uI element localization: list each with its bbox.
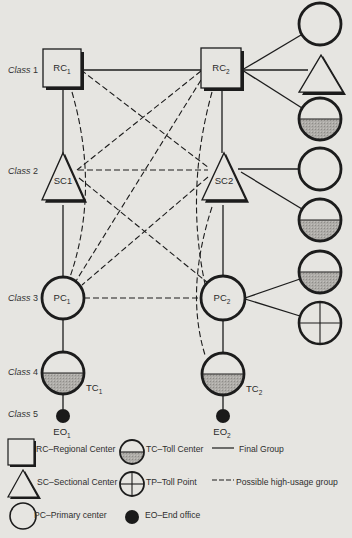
- node-r1: [299, 3, 341, 45]
- node-sc1: SC1: [42, 153, 87, 203]
- node-label-subscript: 2: [259, 389, 263, 396]
- legend-item-RC: RC–Regional Center: [8, 439, 115, 467]
- class-label-2: Class 2: [8, 166, 38, 176]
- class-number: 2: [33, 166, 38, 176]
- high-usage-link-rc2-sc1: [77, 71, 201, 170]
- filled-circle-icon: [125, 510, 139, 524]
- node-label-subscript: 1: [67, 68, 71, 75]
- node-r2: [299, 55, 346, 95]
- legend-item-TC: TC–Toll Center: [120, 440, 203, 464]
- circle-icon: [299, 148, 341, 190]
- legend-label: TP–Toll Point: [146, 477, 197, 487]
- high-usage-links: [70, 70, 212, 355]
- node-label-subscript: 2: [227, 432, 231, 439]
- node-r7: [299, 302, 341, 344]
- legend-label: RC–Regional Center: [36, 444, 115, 454]
- node-r3: [299, 98, 341, 140]
- node-pc2: PC2: [201, 276, 245, 320]
- node-label: SC1: [54, 175, 72, 186]
- toll-network-diagram: RC1RC2SC1SC2PC1PC2TC1TC2EO1EO2 Class 1Cl…: [0, 0, 352, 538]
- node-label-subscript: 1: [67, 298, 71, 305]
- node-label: EO2: [213, 426, 231, 439]
- node-rc1: RC1: [43, 49, 84, 90]
- node-label: SC2: [215, 175, 233, 186]
- node-eo1: EO1: [53, 409, 71, 439]
- node-tc2: TC2: [202, 353, 263, 396]
- class-number: 1: [33, 65, 38, 75]
- class-number: 3: [33, 293, 38, 303]
- legend-item-TP: TP–Toll Point: [120, 472, 197, 496]
- class-number: 4: [33, 367, 38, 377]
- node-label: EO1: [53, 426, 71, 439]
- final-group-links: [63, 35, 308, 409]
- filled-circle-icon: [216, 409, 230, 423]
- node-label: TC1: [86, 382, 103, 395]
- class-label-3: Class 3: [8, 293, 38, 303]
- high-usage-link-sc2-pc1: [82, 177, 208, 285]
- node-rc2: RC2: [201, 48, 244, 91]
- node-label-subscript: 2: [226, 68, 230, 75]
- node-eo2: EO2: [213, 409, 231, 439]
- legend-item-SC: SC–Sectional Center: [8, 470, 117, 499]
- node-label-subscript: 2: [227, 298, 231, 305]
- final-link-rc2-r3: [242, 70, 302, 108]
- triangle-icon: [299, 55, 343, 92]
- legend-label: SC–Sectional Center: [37, 477, 117, 487]
- class-labels: Class 1Class 2Class 3Class 4Class 5: [8, 65, 38, 419]
- node-label: TC2: [246, 383, 263, 396]
- circle-icon: [299, 3, 341, 45]
- class-label-5: Class 5: [8, 409, 38, 419]
- class-label-1: Class 1: [8, 65, 38, 75]
- final-link-sc2-r5: [241, 172, 302, 209]
- triangle-icon: [8, 470, 38, 497]
- square-icon: [8, 439, 34, 465]
- high-usage-link-rc1-sc2: [81, 70, 209, 168]
- node-r6: [299, 251, 341, 293]
- high-usage-link-rc2-pc1: [76, 80, 201, 281]
- legend-item-PC: PC–Primary center: [10, 503, 107, 529]
- node-sc2: SC2: [202, 153, 249, 203]
- legend-label: EO–End office: [145, 510, 200, 520]
- node-label-subscript: 1: [67, 432, 71, 439]
- node-pc1: PC1: [42, 277, 84, 319]
- class-label-4: Class 4: [8, 367, 38, 377]
- node-tc1: TC1: [42, 352, 103, 395]
- final-link-rc2-r1: [242, 35, 301, 70]
- legend-item-dashed-line: Possible high-usage group: [212, 477, 338, 487]
- legend-label: TC–Toll Center: [146, 444, 203, 454]
- high-usage-link-sc1-pc2: [79, 178, 208, 283]
- final-link-pc2-r7: [245, 299, 300, 316]
- node-r5: [299, 199, 341, 241]
- network-nodes: RC1RC2SC1SC2PC1PC2TC1TC2EO1EO2: [42, 3, 346, 439]
- legend-label: Final Group: [239, 444, 284, 454]
- legend-label: PC–Primary center: [34, 510, 107, 520]
- legend-item-solid-line: Final Group: [212, 444, 284, 454]
- legend-item-EO: EO–End office: [125, 510, 200, 524]
- circle-icon: [10, 503, 36, 529]
- class-number: 5: [33, 409, 38, 419]
- filled-circle-icon: [56, 409, 70, 423]
- node-r4: [299, 148, 341, 190]
- legend: RC–Regional CenterTC–Toll CenterFinal Gr…: [8, 439, 338, 529]
- node-label-subscript: 1: [99, 388, 103, 395]
- final-link-pc2-r6: [245, 279, 300, 298]
- legend-label: Possible high-usage group: [236, 477, 338, 487]
